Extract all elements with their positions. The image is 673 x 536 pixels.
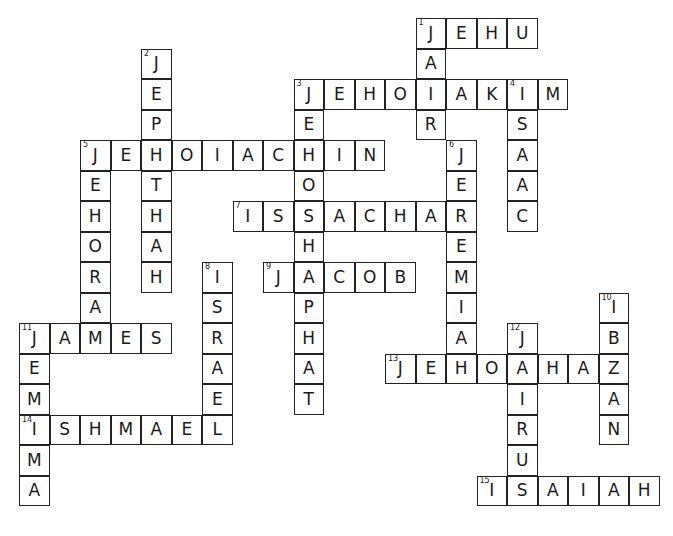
crossword-cell[interactable]: A: [538, 476, 569, 507]
crossword-cell[interactable]: 14I: [19, 415, 50, 446]
crossword-cell[interactable]: A: [507, 171, 538, 202]
crossword-cell[interactable]: A: [141, 232, 172, 263]
crossword-cell[interactable]: E: [80, 171, 111, 202]
crossword-cell[interactable]: 13J: [385, 354, 416, 385]
crossword-cell[interactable]: H: [538, 354, 569, 385]
crossword-cell[interactable]: H: [80, 201, 111, 232]
crossword-cell[interactable]: K: [477, 79, 508, 110]
crossword-cell[interactable]: E: [324, 79, 355, 110]
crossword-cell[interactable]: C: [507, 201, 538, 232]
crossword-cell[interactable]: A: [446, 79, 477, 110]
crossword-cell[interactable]: E: [111, 323, 142, 354]
crossword-cell[interactable]: A: [507, 140, 538, 171]
crossword-cell[interactable]: H: [294, 323, 325, 354]
crossword-cell[interactable]: O: [80, 232, 111, 263]
crossword-cell[interactable]: M: [111, 415, 142, 446]
crossword-cell[interactable]: T: [141, 171, 172, 202]
crossword-cell[interactable]: 2J: [141, 49, 172, 80]
crossword-cell[interactable]: S: [50, 415, 81, 446]
crossword-cell[interactable]: B: [599, 323, 630, 354]
crossword-cell[interactable]: R: [446, 201, 477, 232]
crossword-cell[interactable]: H: [355, 79, 386, 110]
crossword-cell[interactable]: H: [294, 232, 325, 263]
crossword-cell[interactable]: E: [172, 415, 203, 446]
crossword-cell[interactable]: I: [324, 140, 355, 171]
crossword-cell[interactable]: M: [19, 445, 50, 476]
crossword-cell[interactable]: U: [507, 18, 538, 49]
crossword-cell[interactable]: O: [172, 140, 203, 171]
crossword-cell[interactable]: A: [202, 354, 233, 385]
crossword-cell[interactable]: O: [385, 79, 416, 110]
crossword-cell[interactable]: 11J: [19, 323, 50, 354]
crossword-cell[interactable]: E: [111, 140, 142, 171]
crossword-cell[interactable]: H: [629, 476, 660, 507]
crossword-cell[interactable]: A: [599, 384, 630, 415]
crossword-cell[interactable]: Z: [599, 354, 630, 385]
crossword-cell[interactable]: H: [141, 262, 172, 293]
crossword-cell[interactable]: E: [202, 384, 233, 415]
crossword-cell[interactable]: R: [416, 110, 447, 141]
crossword-cell[interactable]: 10I: [599, 293, 630, 324]
crossword-cell[interactable]: 9J: [263, 262, 294, 293]
crossword-cell[interactable]: E: [446, 18, 477, 49]
crossword-cell[interactable]: H: [446, 354, 477, 385]
crossword-cell[interactable]: E: [19, 354, 50, 385]
crossword-cell[interactable]: A: [19, 476, 50, 507]
crossword-cell[interactable]: 12J: [507, 323, 538, 354]
crossword-cell[interactable]: A: [233, 140, 264, 171]
crossword-cell[interactable]: A: [568, 354, 599, 385]
crossword-cell[interactable]: M: [19, 384, 50, 415]
crossword-cell[interactable]: P: [294, 293, 325, 324]
crossword-cell[interactable]: P: [141, 110, 172, 141]
crossword-cell[interactable]: 4I: [507, 79, 538, 110]
crossword-cell[interactable]: C: [324, 262, 355, 293]
crossword-cell[interactable]: T: [294, 384, 325, 415]
crossword-cell[interactable]: R: [202, 323, 233, 354]
crossword-cell[interactable]: E: [294, 110, 325, 141]
crossword-cell[interactable]: 5J: [80, 140, 111, 171]
crossword-cell[interactable]: C: [355, 201, 386, 232]
crossword-cell[interactable]: 8I: [202, 262, 233, 293]
crossword-cell[interactable]: 3J: [294, 79, 325, 110]
crossword-cell[interactable]: N: [599, 415, 630, 446]
crossword-cell[interactable]: A: [416, 49, 447, 80]
crossword-cell[interactable]: H: [294, 140, 325, 171]
crossword-cell[interactable]: A: [50, 323, 81, 354]
crossword-cell[interactable]: A: [294, 354, 325, 385]
crossword-cell[interactable]: S: [202, 293, 233, 324]
crossword-cell[interactable]: A: [324, 201, 355, 232]
crossword-cell[interactable]: 15I: [477, 476, 508, 507]
crossword-cell[interactable]: E: [416, 354, 447, 385]
crossword-cell[interactable]: 1J: [416, 18, 447, 49]
crossword-cell[interactable]: E: [446, 171, 477, 202]
crossword-cell[interactable]: H: [477, 18, 508, 49]
crossword-cell[interactable]: I: [568, 476, 599, 507]
crossword-cell[interactable]: L: [202, 415, 233, 446]
crossword-cell[interactable]: A: [446, 323, 477, 354]
crossword-cell[interactable]: 7I: [233, 201, 264, 232]
crossword-cell[interactable]: A: [294, 262, 325, 293]
crossword-cell[interactable]: S: [263, 201, 294, 232]
crossword-cell[interactable]: H: [141, 140, 172, 171]
crossword-cell[interactable]: O: [477, 354, 508, 385]
crossword-cell[interactable]: A: [416, 201, 447, 232]
crossword-cell[interactable]: B: [385, 262, 416, 293]
crossword-cell[interactable]: O: [294, 171, 325, 202]
crossword-cell[interactable]: E: [446, 232, 477, 263]
crossword-cell[interactable]: A: [507, 354, 538, 385]
crossword-cell[interactable]: M: [538, 79, 569, 110]
crossword-cell[interactable]: E: [141, 79, 172, 110]
crossword-cell[interactable]: M: [446, 262, 477, 293]
crossword-cell[interactable]: A: [80, 293, 111, 324]
crossword-cell[interactable]: H: [141, 201, 172, 232]
crossword-cell[interactable]: S: [507, 476, 538, 507]
crossword-cell[interactable]: U: [507, 445, 538, 476]
crossword-cell[interactable]: I: [202, 140, 233, 171]
crossword-cell[interactable]: I: [507, 384, 538, 415]
crossword-cell[interactable]: I: [446, 293, 477, 324]
crossword-cell[interactable]: S: [294, 201, 325, 232]
crossword-cell[interactable]: I: [416, 79, 447, 110]
crossword-cell[interactable]: M: [80, 323, 111, 354]
crossword-cell[interactable]: A: [141, 415, 172, 446]
crossword-cell[interactable]: C: [263, 140, 294, 171]
